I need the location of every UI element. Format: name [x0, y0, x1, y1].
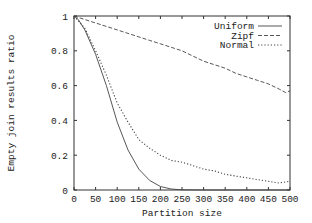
x-tick-label: 350: [217, 194, 234, 205]
x-tick-label: 500: [281, 194, 298, 205]
x-tick-label: 50: [90, 194, 102, 205]
legend: UniformZipfNormal: [214, 21, 282, 51]
x-axis: 050100150200250300350400450500: [71, 16, 299, 205]
y-tick-label: 0.8: [51, 46, 68, 57]
y-axis-label: Empty join results ratio: [6, 34, 17, 171]
series-lines: [74, 16, 290, 190]
series-normal: [74, 16, 290, 183]
series-uniform: [74, 16, 290, 190]
y-tick-label: 0.4: [51, 116, 68, 127]
y-axis: 00.20.40.60.81: [51, 12, 290, 197]
chart: 050100150200250300350400450500 00.20.40.…: [0, 0, 312, 223]
x-tick-label: 250: [173, 194, 190, 205]
x-tick-label: 100: [109, 194, 126, 205]
x-tick-label: 150: [130, 194, 147, 205]
x-tick-label: 400: [238, 194, 255, 205]
y-tick-label: 0.6: [51, 81, 68, 92]
x-tick-label: 0: [71, 194, 77, 205]
series-zipf: [74, 16, 290, 93]
y-tick-label: 1: [62, 12, 68, 23]
x-tick-label: 300: [195, 194, 212, 205]
y-tick-label: 0: [62, 186, 68, 197]
legend-label-normal: Normal: [220, 40, 255, 51]
y-tick-label: 0.2: [51, 151, 68, 162]
x-tick-label: 450: [260, 194, 277, 205]
x-axis-label: Partition size: [142, 208, 222, 219]
plot-frame: [74, 16, 290, 190]
x-tick-label: 200: [152, 194, 169, 205]
plot-border: [74, 16, 290, 190]
